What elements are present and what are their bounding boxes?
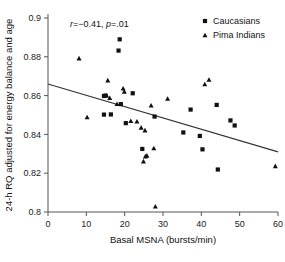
legend-label-caucasians: Caucasians — [213, 16, 261, 26]
data-point-pima-indians — [85, 115, 90, 120]
x-tick-label: 50 — [235, 219, 245, 229]
data-point-pima-indians — [105, 78, 110, 83]
legend-label-pima-indians: Pima Indians — [213, 30, 266, 40]
data-point-pima-indians — [165, 96, 170, 101]
data-point-pima-indians — [202, 82, 207, 87]
data-point-caucasians — [116, 48, 120, 52]
data-point-caucasians — [198, 134, 202, 138]
y-axis-title: 24-h RQ adjusted for energy balance and … — [3, 19, 14, 212]
data-point-caucasians — [102, 113, 106, 117]
x-tick-label: 10 — [81, 219, 91, 229]
y-tick-label: 0.84 — [23, 130, 41, 140]
data-point-caucasians — [215, 103, 219, 107]
data-point-caucasians — [181, 130, 185, 134]
data-point-pima-indians — [273, 164, 278, 169]
x-axis-title: Basal MSNA (bursts/min) — [110, 234, 216, 245]
data-point-pima-indians — [139, 125, 144, 130]
data-point-pima-indians — [141, 159, 146, 164]
data-point-pima-indians — [142, 128, 147, 133]
y-tick-label: 0.86 — [23, 91, 41, 101]
data-point-caucasians — [152, 114, 156, 118]
data-point-caucasians — [200, 147, 204, 151]
chart-canvas: 0.80.820.840.860.880.90102030405060Basal… — [0, 0, 285, 262]
data-point-caucasians — [119, 102, 123, 106]
data-point-pima-indians — [153, 204, 158, 209]
scatter-chart-figure: 0.80.820.840.860.880.90102030405060Basal… — [0, 0, 285, 262]
data-point-caucasians — [109, 112, 113, 116]
stats-annotation: r=−0.41, p=.01 — [70, 19, 129, 29]
data-point-caucasians — [140, 147, 144, 151]
x-tick-label: 40 — [196, 219, 206, 229]
x-tick-label: 0 — [45, 219, 50, 229]
data-point-pima-indians — [207, 77, 212, 82]
data-point-caucasians — [189, 107, 193, 111]
data-point-pima-indians — [128, 119, 133, 124]
regression-line — [48, 84, 278, 152]
data-point-pima-indians — [149, 103, 154, 108]
legend-marker-pima-indians — [203, 33, 208, 38]
data-point-caucasians — [124, 121, 128, 125]
data-point-caucasians — [118, 37, 122, 41]
data-point-caucasians — [233, 123, 237, 127]
y-tick-label: 0.88 — [23, 52, 41, 62]
y-tick-label: 0.82 — [23, 168, 41, 178]
data-point-pima-indians — [77, 56, 82, 61]
data-point-caucasians — [216, 167, 220, 171]
y-tick-label: 0.9 — [28, 13, 41, 23]
x-tick-label: 30 — [158, 219, 168, 229]
data-point-caucasians — [131, 91, 135, 95]
data-point-caucasians — [228, 118, 232, 122]
x-tick-label: 60 — [273, 219, 283, 229]
data-point-pima-indians — [151, 146, 156, 151]
legend-marker-caucasians — [203, 19, 207, 23]
y-tick-label: 0.8 — [28, 207, 41, 217]
data-point-pima-indians — [121, 86, 126, 91]
x-tick-label: 20 — [120, 219, 130, 229]
data-point-pima-indians — [134, 119, 139, 124]
